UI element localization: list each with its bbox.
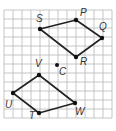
vertex-point-w [73, 101, 77, 105]
vertex-label-t: T [29, 110, 36, 121]
vertex-label-r: R [80, 56, 87, 67]
vertex-label-q: Q [99, 21, 107, 32]
vertex-point-s [38, 27, 42, 31]
vertex-label-u: U [5, 99, 13, 110]
vertex-point-v [37, 73, 41, 77]
vertex-point-r [74, 55, 78, 59]
center-label-c: C [59, 66, 67, 77]
vertex-label-v: V [35, 58, 43, 69]
vertex-label-s: S [36, 13, 43, 24]
vertex-points [11, 18, 104, 115]
vertex-point-p [74, 18, 78, 22]
vertex-point-q [100, 36, 104, 40]
transformation-diagram: SPQRVWTUC [0, 0, 116, 131]
vertex-label-p: P [80, 7, 87, 18]
vertex-point-u [11, 91, 15, 95]
vertex-point-t [37, 111, 41, 115]
vertex-label-w: W [75, 106, 86, 117]
